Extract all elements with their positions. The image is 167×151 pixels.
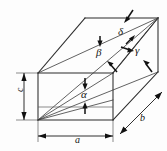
angle-label-alpha: α [81,89,87,100]
angle-label-delta: δ [118,26,123,37]
angle-label-beta: β [96,47,101,58]
dimension-label-c: c [15,88,25,92]
arrowhead-delta-top [124,16,130,23]
figure-container: α β γ δ a b c [0,0,167,151]
angle-label-gamma: γ [135,45,139,56]
edge-bottom-right-receding [113,72,158,120]
diagonal-space-main [38,18,158,120]
dimension-label-a: a [75,135,80,145]
arrowhead-a-left [38,133,46,138]
edge-top-left-receding [38,18,85,73]
cuboid-diagram-svg [0,0,167,151]
arrowhead-a-right [105,133,113,138]
arrowhead-beta-bottom [107,61,114,66]
diagonal-to-front-top-right [38,73,113,120]
arrowhead-c-bottom [21,112,26,120]
space-diagonals [38,18,158,120]
leader-gamma-right [146,64,152,72]
arrowhead-c-top [21,73,26,81]
dimension-label-b: b [140,113,145,123]
arrowhead-alpha-bottom [82,102,87,109]
arrowhead-gamma-right [143,60,150,66]
dimension-c-group [16,73,38,120]
